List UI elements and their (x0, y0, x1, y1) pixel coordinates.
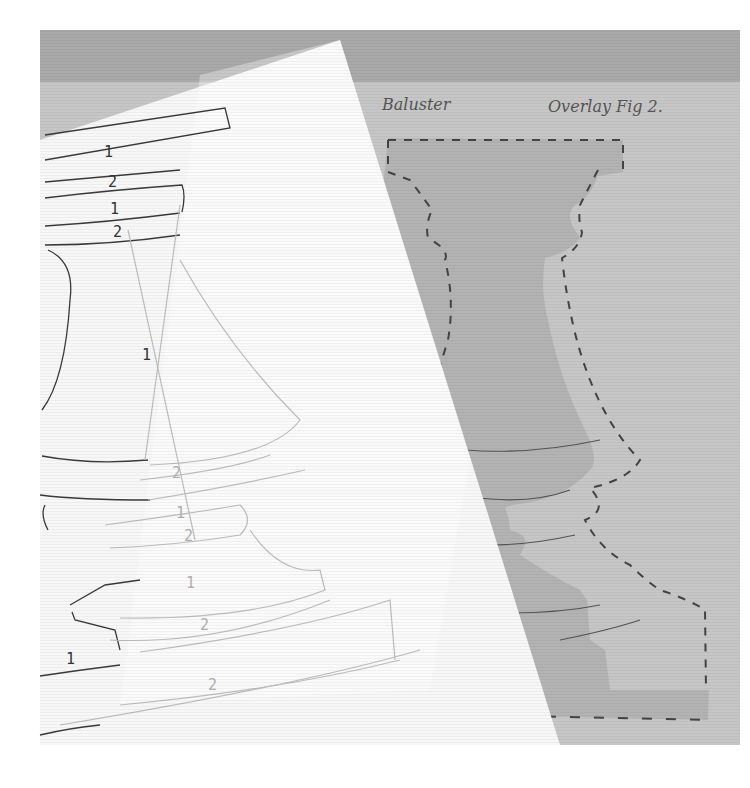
pattern-photo: 1 2 1 2 1 1 2 1 2 1 2 2 Baluster Overlay… (0, 0, 750, 788)
paper-texture (40, 30, 740, 745)
